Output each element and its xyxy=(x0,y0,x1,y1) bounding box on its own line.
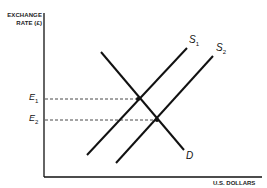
equilibrium-point-e1 xyxy=(136,97,140,101)
label-d: D xyxy=(186,150,193,161)
label-s2: S2 xyxy=(216,42,226,55)
tick-e2: E2 xyxy=(29,113,38,125)
label-s1: S1 xyxy=(189,34,199,47)
tick-e1: E1 xyxy=(29,92,38,104)
y-axis-label: EXCHANGE RATE (£) xyxy=(7,11,42,27)
x-axis-label: U.S. DOLLARS xyxy=(213,180,255,186)
diagram-canvas xyxy=(0,0,267,188)
equilibrium-point-e2 xyxy=(155,118,159,122)
y-axis-label-line1: EXCHANGE xyxy=(7,11,42,19)
y-axis-label-line2: RATE (£) xyxy=(7,19,42,27)
